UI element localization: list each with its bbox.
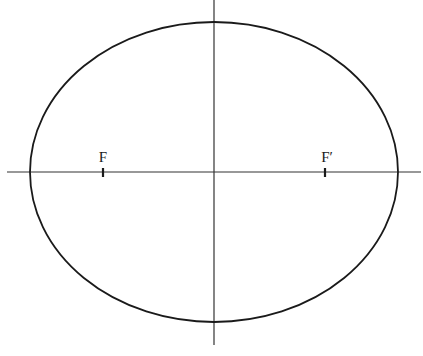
ellipse-diagram: F F′ bbox=[0, 0, 423, 356]
focus-label-right: F′ bbox=[321, 149, 333, 165]
focus-label-left: F bbox=[99, 149, 107, 165]
